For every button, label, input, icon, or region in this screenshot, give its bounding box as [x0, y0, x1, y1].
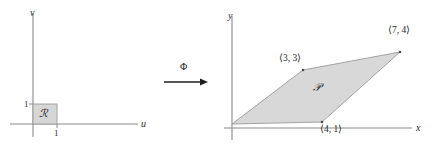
region-r-label: ℛ [39, 108, 48, 119]
y-axis-label: y [228, 11, 232, 21]
figure-canvas [0, 0, 436, 160]
vertex-label-4-1: ⟨4, 1⟩ [320, 125, 342, 135]
region-p-label: 𝒫 [313, 82, 321, 93]
vertex-label-3-3: ⟨3, 3⟩ [279, 54, 301, 64]
vertex-dot-4-1 [321, 121, 324, 124]
v-axis-tick-1-label: 1 [24, 100, 29, 109]
vertex-dot-3-3 [302, 69, 305, 72]
v-axis-label: v [30, 8, 34, 18]
arrow-head [200, 78, 208, 85]
vertex-dot-7-4 [399, 51, 402, 54]
vertex-label-7-4: ⟨7, 4⟩ [388, 26, 410, 36]
x-axis-label: x [416, 123, 420, 133]
u-axis-tick-1-label: 1 [54, 129, 59, 138]
u-axis-label: u [141, 119, 146, 129]
transformation-arrow [164, 78, 208, 85]
range-panel [224, 16, 412, 140]
transformation-figure: v u 1 1 ℛ Φ y x ⟨3, 3⟩ ⟨7, 4⟩ ⟨4, 1⟩ 𝒫 [0, 0, 436, 160]
transformation-phi-label: Φ [180, 62, 187, 72]
domain-panel [10, 13, 138, 137]
